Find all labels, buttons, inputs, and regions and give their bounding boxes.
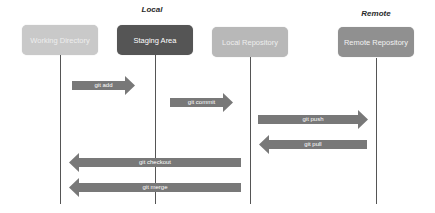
lifeline-local-repository — [250, 57, 251, 204]
arrow-label: git push — [258, 110, 368, 129]
box-local-repository: Local Repository — [212, 27, 288, 57]
arrow-git-commit: git commit — [170, 93, 233, 112]
box-staging-area: Staging Area — [117, 25, 193, 55]
box-label: Local Repository — [222, 38, 278, 47]
lifeline-remote-repository — [376, 58, 377, 204]
arrow-label: git merge — [69, 178, 241, 197]
arrow-git-push: git push — [258, 110, 368, 129]
arrow-label: git checkout — [69, 153, 241, 172]
box-remote-repository: Remote Repository — [338, 27, 414, 57]
arrow-git-pull: git pull — [259, 135, 367, 154]
arrow-label: git add — [72, 76, 135, 95]
box-label: Working Directory — [30, 36, 89, 45]
lifeline-working-directory — [60, 55, 61, 204]
box-working-directory: Working Directory — [22, 25, 98, 55]
arrow-git-add: git add — [72, 76, 135, 95]
arrow-label: git commit — [170, 93, 233, 112]
box-label: Staging Area — [134, 36, 177, 45]
arrow-git-merge: git merge — [69, 178, 241, 197]
arrow-label: git pull — [259, 135, 367, 154]
arrow-git-checkout: git checkout — [69, 153, 241, 172]
section-label-remote: Remote — [361, 9, 390, 18]
section-label-local: Local — [142, 5, 163, 14]
box-label: Remote Repository — [344, 38, 408, 47]
